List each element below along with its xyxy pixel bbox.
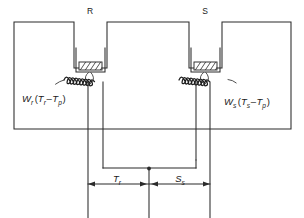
dsc-schematic-diagram: R S Wr(Tr–Tp) Ws(Ts–Tp) Tr Ss — [0, 0, 304, 218]
center-tap-node — [147, 167, 151, 171]
dim-arrow-left-end — [140, 181, 147, 186]
sample-coil-lead-tail — [228, 80, 236, 83]
reference-heater-coil — [64, 77, 95, 86]
reference-cell-label: R — [87, 6, 93, 16]
reference-coil-lead-tail — [56, 80, 65, 84]
diagram-canvas: R S Wr(Tr–Tp) Ws(Ts–Tp) Tr Ss — [0, 0, 304, 218]
dim-arrow-right-start — [151, 181, 158, 186]
dim-arrow-left-start — [88, 181, 95, 186]
reference-sample-pan — [79, 60, 107, 72]
sample-cell-label: S — [202, 6, 208, 16]
sample-heater-coil — [179, 77, 209, 86]
right-dimension-label: Ss — [175, 173, 185, 186]
left-dimension-label: Tr — [113, 173, 122, 186]
sample-heat-flow-equation: Ws(Ts–Tp) — [224, 96, 270, 110]
sample-sample-pan — [194, 60, 222, 72]
reference-heat-flow-equation: Wr(Tr–Tp) — [22, 93, 66, 107]
dim-arrow-right-end — [203, 181, 210, 186]
calorimeter-body-outline — [14, 22, 291, 129]
